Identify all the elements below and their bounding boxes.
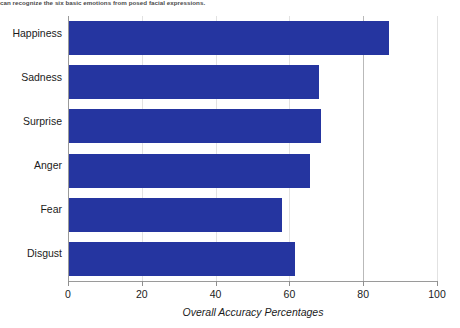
bar-sadness [68, 65, 319, 99]
x-axis-line [68, 281, 438, 282]
x-axis-tick [437, 281, 438, 286]
y-axis-line [68, 16, 69, 282]
x-axis-tick [142, 281, 143, 286]
bar-anger [68, 154, 310, 188]
x-axis-tick-label: 60 [269, 288, 309, 300]
x-axis-tick-label: 0 [48, 288, 88, 300]
bar-row [68, 109, 437, 143]
bar-surprise [68, 109, 321, 143]
x-axis-tick-label: 20 [122, 288, 162, 300]
bar-row [68, 198, 437, 232]
y-axis-tick-label: Surprise [0, 104, 62, 138]
x-axis-tick-label: 40 [196, 288, 236, 300]
x-axis-tick [289, 281, 290, 286]
bar-row [68, 242, 437, 276]
x-axis-title: Overall Accuracy Percentages [68, 306, 438, 318]
x-axis-tick [363, 281, 364, 286]
x-axis-tick [216, 281, 217, 286]
bar-row [68, 65, 437, 99]
y-axis-tick-label: Anger [0, 148, 62, 182]
x-axis-tick-label: 100 [417, 288, 457, 300]
y-axis-tick-label: Fear [0, 192, 62, 226]
y-axis-labels: Happiness Sadness Surprise Anger Fear Di… [0, 16, 62, 281]
y-axis-tick-label: Sadness [0, 60, 62, 94]
x-axis-tick [68, 281, 69, 286]
gridline [437, 16, 438, 281]
bar-disgust [68, 242, 295, 276]
bar-chart: Happiness Sadness Surprise Anger Fear Di… [0, 0, 460, 328]
plot-area [68, 16, 437, 281]
bar-row [68, 21, 437, 55]
bar-row [68, 154, 437, 188]
bar-fear [68, 198, 282, 232]
x-axis-tick-label: 80 [343, 288, 383, 300]
y-axis-tick-label: Happiness [0, 16, 62, 50]
bar-happiness [68, 21, 389, 55]
y-axis-tick-label: Disgust [0, 236, 62, 270]
